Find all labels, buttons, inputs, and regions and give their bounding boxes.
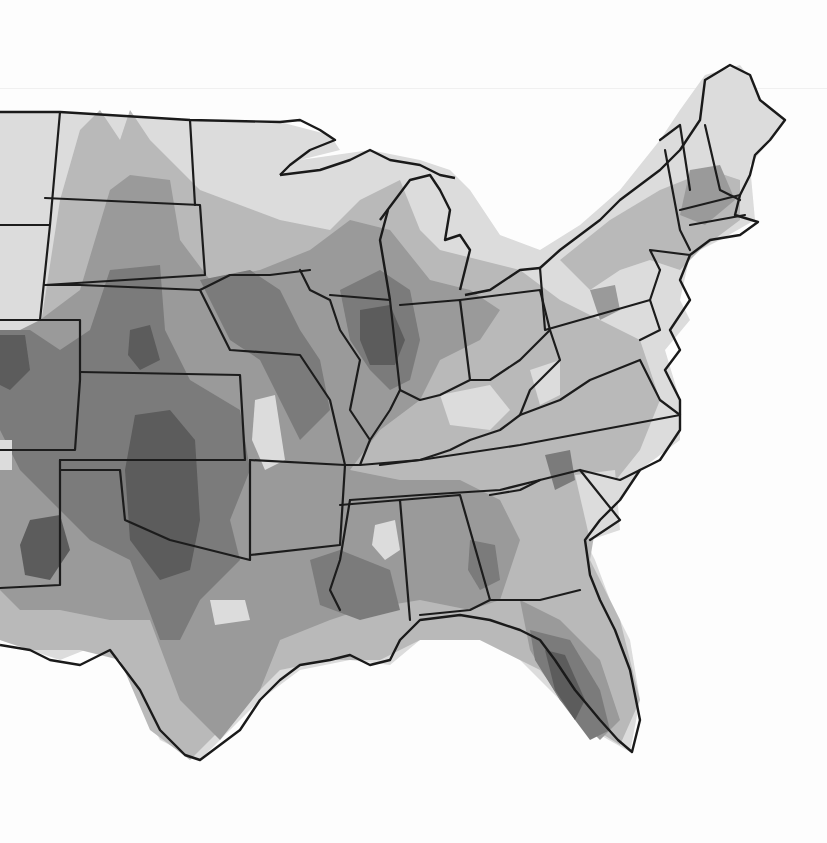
us-density-map (0, 0, 827, 843)
map-page (0, 0, 827, 843)
